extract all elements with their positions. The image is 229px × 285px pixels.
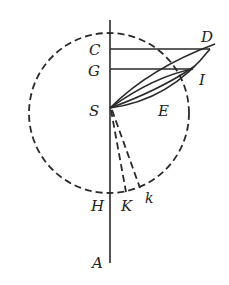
diagram-canvas: C D G I S E H K k A: [0, 0, 229, 285]
label-G: G: [88, 62, 100, 80]
label-H: H: [90, 197, 105, 215]
label-D: D: [200, 28, 213, 46]
label-k: k: [145, 190, 153, 206]
curve-SI: [110, 66, 195, 108]
dashed-ray-Sk: [112, 110, 140, 188]
label-A: A: [90, 254, 103, 272]
label-S: S: [89, 102, 99, 120]
label-K: K: [120, 197, 133, 215]
label-I: I: [198, 71, 206, 89]
dashed-ray-SK: [111, 110, 126, 192]
label-C: C: [89, 41, 101, 59]
label-E: E: [157, 102, 169, 120]
